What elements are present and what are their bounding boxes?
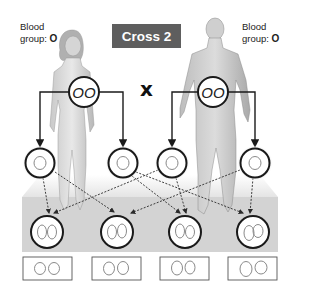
- result-boxes: [23, 257, 277, 280]
- mother-genotype-circle: OO: [69, 77, 99, 107]
- mother-blood-group-value: O: [50, 33, 58, 44]
- mother-label-line2: group:: [20, 33, 47, 44]
- father-blood-group-label: Blood group: O: [242, 21, 279, 45]
- offspring-2: [101, 216, 133, 248]
- mother-blood-group-label: Blood group: O: [20, 21, 57, 45]
- result-box-4: [228, 257, 277, 280]
- father-blood-group-value: O: [272, 33, 280, 44]
- offspring-1: [31, 216, 63, 248]
- result-box-1: [23, 257, 72, 280]
- offspring-4: [237, 216, 269, 248]
- father-label-line1: Blood: [242, 21, 279, 33]
- father-genotype-circle: OO: [198, 77, 228, 107]
- mother-label-line1: Blood: [20, 21, 57, 33]
- gamete-father-1: [154, 145, 190, 181]
- gamete-father-2: [237, 145, 273, 181]
- gamete-mother-2: [105, 145, 141, 181]
- gamete-mother-1: [22, 145, 58, 181]
- cross-title: Cross 2: [112, 24, 181, 48]
- result-box-2: [92, 257, 141, 280]
- father-genotype-text: OO: [201, 84, 225, 101]
- mother-genotype-text: OO: [72, 84, 96, 101]
- offspring-3: [169, 216, 201, 248]
- cross-symbol: x: [140, 77, 153, 101]
- father-label-line2: group:: [242, 33, 269, 44]
- result-box-3: [160, 257, 209, 280]
